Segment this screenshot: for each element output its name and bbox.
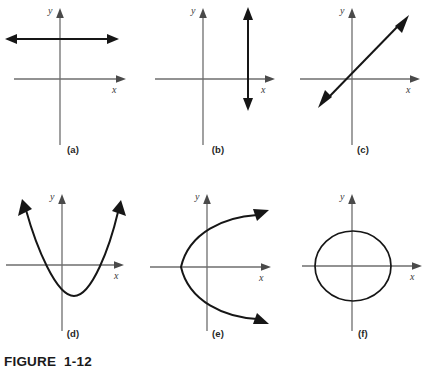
- axes-f: [302, 194, 422, 331]
- curve-arrow-up-right-icon: [112, 200, 126, 216]
- curve-arrow-up-icon: [243, 7, 253, 20]
- panel-label-b: (b): [145, 144, 291, 155]
- x-axis-arrow-icon: [114, 261, 124, 269]
- curve-a: [5, 34, 119, 44]
- curve-arrow-left-icon: [5, 34, 17, 44]
- y-axis-arrow-icon: [348, 8, 356, 18]
- graph-d: x y: [0, 184, 146, 334]
- figure-caption: FIGURE 1-12: [4, 354, 92, 369]
- axes-b: [155, 8, 275, 145]
- curve-arrow-down-icon: [243, 98, 253, 111]
- y-axis-label: y: [47, 5, 53, 16]
- graph-c: x y: [290, 0, 436, 150]
- graph-a: x y: [0, 0, 146, 150]
- panel-label-f: (f): [290, 328, 436, 339]
- x-axis-arrow-icon: [261, 263, 271, 271]
- y-axis-label: y: [190, 5, 196, 16]
- panel-label-e: (e): [145, 328, 291, 339]
- x-axis-label: x: [113, 270, 119, 281]
- curve-arrow-up-right-icon: [395, 15, 409, 33]
- panel-e: x y (e): [145, 184, 291, 354]
- y-axis-arrow-icon: [58, 194, 66, 204]
- x-axis-label: x: [258, 272, 264, 283]
- x-axis-arrow-icon: [410, 75, 420, 83]
- panel-label-a: (a): [0, 144, 146, 155]
- curve-d: [18, 199, 126, 296]
- y-axis-arrow-icon: [348, 194, 356, 204]
- panel-label-c: (c): [290, 144, 436, 155]
- y-axis-label: y: [339, 191, 345, 202]
- graph-e: x y: [145, 184, 291, 334]
- x-axis-arrow-icon: [116, 75, 126, 83]
- x-axis-label: x: [409, 271, 415, 282]
- x-axis-arrow-icon: [412, 262, 422, 270]
- axes-d: [6, 194, 124, 331]
- panel-label-d: (d): [0, 328, 146, 339]
- curve-arrow-down-right-icon: [253, 313, 269, 324]
- panel-b: x y (b): [145, 0, 291, 170]
- figure-1-12: x y (a) x y (b): [0, 0, 436, 376]
- curve-arrow-up-left-icon: [18, 199, 32, 216]
- parabola-up-curve: [26, 210, 118, 296]
- axes-a: [14, 8, 126, 145]
- curve-c: [318, 15, 409, 108]
- panel-a: x y (a): [0, 0, 146, 170]
- curve-b: [243, 7, 253, 111]
- curve-arrow-right-icon: [107, 34, 119, 44]
- slanted-line-curve: [327, 24, 400, 99]
- curve-arrow-up-right-icon: [253, 209, 269, 221]
- x-axis-arrow-icon: [265, 75, 275, 83]
- graph-f: x y: [290, 184, 436, 334]
- graph-b: x y: [145, 0, 291, 150]
- y-axis-arrow-icon: [199, 8, 207, 18]
- x-axis-label: x: [111, 84, 117, 95]
- x-axis-label: x: [405, 84, 411, 95]
- y-axis-label: y: [194, 191, 200, 202]
- x-axis-label: x: [260, 84, 266, 95]
- y-axis-arrow-icon: [203, 194, 211, 204]
- panel-d: x y (d): [0, 184, 146, 354]
- y-axis-label: y: [339, 5, 345, 16]
- panel-f: x y (f): [290, 184, 436, 354]
- curve-arrow-down-left-icon: [318, 90, 332, 108]
- y-axis-label: y: [49, 191, 55, 202]
- panel-c: x y (c): [290, 0, 436, 170]
- y-axis-arrow-icon: [56, 8, 64, 18]
